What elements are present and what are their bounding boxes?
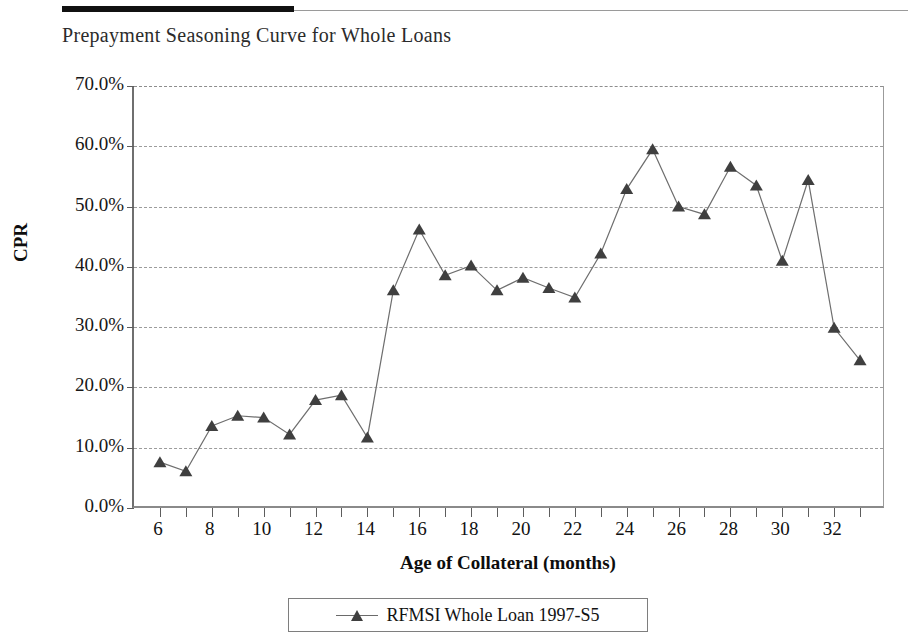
header-rules <box>0 0 912 16</box>
y-axis-tick <box>127 267 134 268</box>
data-point-marker <box>205 420 218 431</box>
x-axis-tick <box>523 508 524 517</box>
x-axis-tick-label: 32 <box>812 518 852 540</box>
x-axis-tick <box>238 508 239 517</box>
x-axis-tick <box>393 508 394 517</box>
chart-title: Prepayment Seasoning Curve for Whole Loa… <box>62 24 451 47</box>
x-axis-tick-label: 14 <box>345 518 385 540</box>
x-axis-tick-label: 20 <box>501 518 541 540</box>
data-point-marker <box>413 223 426 234</box>
header-thick-rule <box>62 6 294 12</box>
data-point-marker <box>698 208 711 219</box>
data-point-marker <box>465 260 478 271</box>
x-axis-tick-label: 26 <box>657 518 697 540</box>
x-axis-tick <box>782 508 783 517</box>
y-axis-tick <box>127 508 134 509</box>
x-axis-tick <box>264 508 265 517</box>
data-series-line <box>134 86 886 508</box>
y-axis-tick <box>127 146 134 147</box>
x-axis-tick-label: 28 <box>708 518 748 540</box>
x-axis-tick <box>212 508 213 517</box>
x-axis-tick <box>679 508 680 517</box>
x-axis-tick <box>549 508 550 517</box>
data-point-marker <box>646 143 659 154</box>
x-axis-tick <box>860 508 861 517</box>
x-axis-tick-label: 22 <box>553 518 593 540</box>
y-axis-tick-label: 60.0% <box>40 133 124 155</box>
x-axis-tick <box>497 508 498 517</box>
x-axis-tick-label: 12 <box>294 518 334 540</box>
x-axis-tick <box>834 508 835 517</box>
legend-entry-label: RFMSI Whole Loan 1997-S5 <box>386 605 599 626</box>
x-axis-tick-label: 18 <box>449 518 489 540</box>
data-point-marker <box>153 456 166 467</box>
y-axis-tick-label: 10.0% <box>40 435 124 457</box>
x-axis-title: Age of Collateral (months) <box>132 552 884 574</box>
y-axis-tick <box>127 448 134 449</box>
y-axis-tick-label: 0.0% <box>40 495 124 517</box>
data-point-marker <box>828 322 841 333</box>
y-axis-tick-label: 20.0% <box>40 374 124 396</box>
legend: RFMSI Whole Loan 1997-S5 <box>288 598 648 632</box>
y-axis-tick <box>127 387 134 388</box>
x-axis-tick <box>160 508 161 517</box>
y-axis-tick <box>127 207 134 208</box>
x-axis-tick <box>186 508 187 517</box>
legend-marker-icon <box>336 608 378 622</box>
data-point-marker <box>335 389 348 400</box>
data-point-marker <box>387 284 400 295</box>
x-axis-tick <box>808 508 809 517</box>
data-point-marker <box>724 161 737 172</box>
x-axis-tick <box>653 508 654 517</box>
data-point-marker <box>542 282 555 293</box>
x-axis-tick <box>341 508 342 517</box>
y-axis-tick-label: 50.0% <box>40 194 124 216</box>
y-axis-tick-label: 40.0% <box>40 254 124 276</box>
x-axis-tick <box>601 508 602 517</box>
x-axis-tick <box>756 508 757 517</box>
data-point-marker <box>620 183 633 194</box>
data-point-marker <box>750 179 763 190</box>
x-axis-tick <box>704 508 705 517</box>
x-axis-tick <box>730 508 731 517</box>
y-axis-tick-label: 70.0% <box>40 73 124 95</box>
x-axis-tick-label: 8 <box>190 518 230 540</box>
data-point-marker <box>854 354 867 365</box>
data-point-marker <box>672 201 685 212</box>
data-point-marker <box>361 431 374 442</box>
data-point-marker <box>776 255 789 266</box>
data-point-marker <box>802 174 815 185</box>
x-axis-tick-label: 10 <box>242 518 282 540</box>
data-point-marker <box>283 428 296 439</box>
x-axis-tick <box>445 508 446 517</box>
plot-area <box>132 86 884 508</box>
x-axis-tick-label: 16 <box>397 518 437 540</box>
data-point-marker <box>439 269 452 280</box>
data-point-marker <box>179 465 192 476</box>
data-point-marker <box>594 248 607 259</box>
chart-figure: Prepayment Seasoning Curve for Whole Loa… <box>0 0 912 640</box>
x-axis-tick <box>316 508 317 517</box>
x-axis-tick <box>627 508 628 517</box>
x-axis-tick-label: 24 <box>605 518 645 540</box>
series-line <box>160 149 860 471</box>
y-axis-tick <box>127 327 134 328</box>
x-axis-tick <box>419 508 420 517</box>
y-axis-tick <box>127 86 134 87</box>
data-point-marker <box>231 410 244 421</box>
y-axis-title: CPR <box>10 223 32 262</box>
x-axis-tick <box>575 508 576 517</box>
data-point-marker <box>568 292 581 303</box>
y-axis-tick-label: 30.0% <box>40 314 124 336</box>
x-axis-tick-label: 30 <box>760 518 800 540</box>
x-axis-tick-label: 6 <box>138 518 178 540</box>
x-axis-tick <box>471 508 472 517</box>
data-point-marker <box>516 272 529 283</box>
x-axis-tick <box>290 508 291 517</box>
x-axis-tick <box>367 508 368 517</box>
